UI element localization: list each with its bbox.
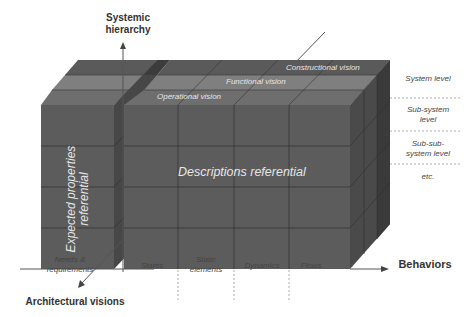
architectural-visions-label: Architectural visions bbox=[20, 296, 130, 308]
referential-line: referential bbox=[78, 129, 91, 269]
level-line: etc. bbox=[393, 172, 463, 182]
level-line: Sub-system bbox=[393, 105, 463, 115]
behavior-label-states: States bbox=[128, 261, 176, 271]
expected-properties-referential-label: Expected properties referential bbox=[65, 129, 91, 269]
behavior-line: Dynamics bbox=[236, 261, 288, 271]
level-line: level bbox=[393, 115, 463, 125]
operational-vision-label: Operational vision bbox=[157, 92, 221, 101]
behavior-line: Static bbox=[180, 255, 232, 265]
level-line: Sub-sub- bbox=[393, 139, 463, 149]
behavior-line: Needs & bbox=[30, 255, 110, 265]
behavior-label-flows: Flows bbox=[291, 261, 331, 271]
up-arrow-icon bbox=[120, 42, 126, 49]
functional-vision-label: Functional vision bbox=[226, 77, 286, 86]
behavior-line: requirements bbox=[30, 265, 110, 275]
right-arrow-icon bbox=[381, 266, 389, 272]
behaviors-label: Behaviors bbox=[395, 258, 455, 270]
level-line: System level bbox=[393, 74, 463, 84]
axis-title-line: hierarchy bbox=[95, 24, 161, 36]
left-top-band-back bbox=[65, 60, 157, 75]
behavior-line: States bbox=[128, 261, 176, 271]
level-line: system level bbox=[393, 149, 463, 159]
behavior-line: Flows bbox=[291, 261, 331, 271]
level-label-system: System level bbox=[393, 74, 463, 84]
behavior-label-dynamics: Dynamics bbox=[236, 261, 288, 271]
behavior-label-static-elements: Static elements bbox=[180, 255, 232, 275]
behavior-label-needs: Needs & requirements bbox=[30, 255, 110, 275]
left-top-band-mid bbox=[52, 75, 144, 90]
level-label-sub-system: Sub-system level bbox=[393, 105, 463, 125]
behavior-line: elements bbox=[180, 265, 232, 275]
systemic-hierarchy-label: Systemic hierarchy bbox=[95, 12, 161, 36]
level-label-sub-sub-system: Sub-sub- system level bbox=[393, 139, 463, 159]
level-label-etc: etc. bbox=[393, 172, 463, 182]
constructional-vision-label: Constructional vision bbox=[286, 63, 360, 72]
axis-title-line: Systemic bbox=[95, 12, 161, 24]
descriptions-referential-label: Descriptions referential bbox=[178, 165, 306, 179]
